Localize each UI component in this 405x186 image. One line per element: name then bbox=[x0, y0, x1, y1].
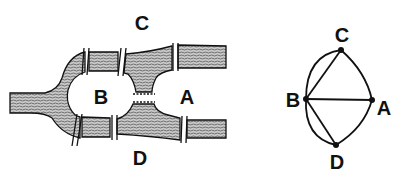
map-label-d: D bbox=[133, 148, 147, 168]
graph bbox=[303, 47, 375, 148]
graph-label-d: D bbox=[330, 152, 344, 172]
node-c bbox=[338, 47, 344, 53]
graph-label-b: B bbox=[286, 90, 300, 110]
graph-label-c: C bbox=[335, 25, 349, 45]
edge-b-a bbox=[306, 99, 372, 100]
edge-d-a bbox=[336, 100, 372, 145]
edge-c-a bbox=[341, 50, 372, 100]
node-b bbox=[303, 96, 309, 102]
map-label-b: B bbox=[94, 87, 108, 107]
map-label-c: C bbox=[135, 13, 149, 33]
river-north-1 bbox=[89, 52, 118, 71]
node-d bbox=[333, 142, 339, 148]
river-north-2 bbox=[124, 46, 172, 92]
river-south-2 bbox=[117, 104, 180, 140]
river-south-3 bbox=[187, 120, 226, 138]
graph-label-a: A bbox=[377, 98, 391, 118]
river-south-1 bbox=[82, 117, 110, 137]
map-label-a: A bbox=[180, 87, 194, 107]
node-a bbox=[369, 97, 375, 103]
river-west bbox=[10, 52, 85, 138]
river-north-3 bbox=[178, 45, 226, 68]
